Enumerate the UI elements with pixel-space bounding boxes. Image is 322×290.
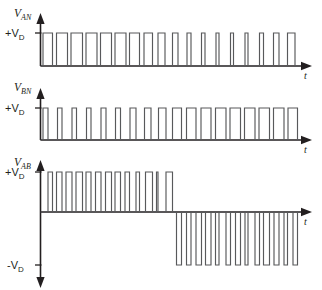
panel-van: VAN +VD t	[5, 7, 312, 81]
van-amplitude-label: +VD	[5, 27, 25, 42]
pwm-waveform-figure: VAN +VD t VBN +VD t	[0, 0, 322, 290]
vab-time-axis-arrow-icon	[301, 208, 312, 216]
vbn-signal-label: VBN	[14, 81, 32, 96]
vbn-time-axis-arrow-icon	[301, 136, 312, 144]
vab-amplitude-minus-label: -VD	[7, 259, 24, 274]
vbn-time-axis-label: t	[304, 144, 307, 155]
vab-waveform-trace	[41, 172, 301, 265]
vbn-waveform-trace	[41, 108, 301, 140]
van-vertical-axis-arrow-icon	[36, 13, 44, 24]
waveform-canvas: VAN +VD t VBN +VD t	[0, 0, 322, 290]
panel-vbn: VBN +VD t	[5, 81, 312, 155]
van-signal-label: VAN	[14, 7, 32, 22]
vab-vertical-axis-arrow-up-icon	[36, 160, 44, 171]
van-time-axis-label: t	[304, 70, 307, 81]
panel-vab: VAB +VD -VD t	[5, 156, 312, 288]
van-waveform-trace	[41, 33, 301, 66]
vbn-vertical-axis-arrow-icon	[36, 88, 44, 99]
vab-vertical-axis-arrow-down-icon	[36, 277, 44, 288]
vbn-amplitude-label: +VD	[5, 102, 25, 117]
van-time-axis-arrow-icon	[301, 62, 312, 70]
vab-time-axis-label: t	[304, 216, 307, 227]
